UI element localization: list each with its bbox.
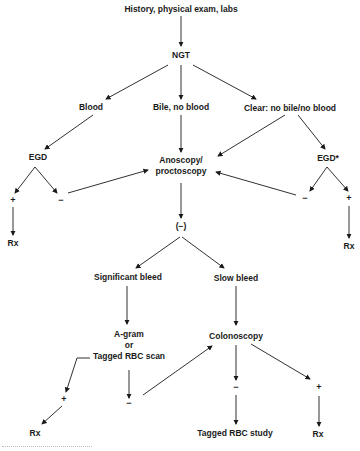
clear-node: Clear: no bile/no blood	[244, 103, 336, 114]
anoscopy-node: Anoscopy/ proctoscopy	[155, 155, 206, 177]
blood-node: Blood	[79, 102, 103, 113]
tagged-rbc-study-node: Tagged RBC study	[197, 428, 272, 439]
agram-line3: Tagged RBC scan	[93, 351, 165, 362]
footer-rule	[2, 446, 92, 448]
rx-right-node: Rx	[344, 241, 355, 252]
bile-node: Bile, no blood	[153, 102, 209, 113]
egd-right-node: EGD*	[317, 153, 339, 164]
significant-bleed-node: Significant bleed	[94, 272, 162, 283]
egd-left-negative: −	[58, 195, 63, 205]
rx-left-node: Rx	[8, 238, 19, 249]
agram-node: A-gram or Tagged RBC scan	[93, 329, 165, 362]
egd-left-positive: +	[10, 195, 15, 205]
agram-negative: −	[126, 398, 131, 408]
rx-bottom-right-node: Rx	[313, 429, 324, 440]
slow-bleed-node: Slow bleed	[214, 273, 258, 284]
ngt-node: NGT	[172, 50, 190, 61]
history-node: History, physical exam, labs	[124, 4, 237, 15]
colonoscopy-negative: −	[233, 382, 238, 392]
anoscopy-line2: proctoscopy	[155, 166, 206, 177]
anoscopy-line1: Anoscopy/	[155, 155, 206, 166]
egd-left-node: EGD	[29, 152, 47, 163]
negative-result-node: (−)	[176, 221, 187, 232]
colonoscopy-node: Colonoscopy	[209, 331, 263, 342]
colonoscopy-positive: +	[316, 382, 321, 392]
egd-right-negative: −	[302, 193, 307, 203]
agram-positive: +	[61, 394, 66, 404]
agram-line1: A-gram	[93, 329, 165, 340]
egd-right-positive: +	[346, 193, 351, 203]
rx-bottom-left-node: Rx	[30, 428, 41, 439]
agram-line2: or	[93, 340, 165, 351]
